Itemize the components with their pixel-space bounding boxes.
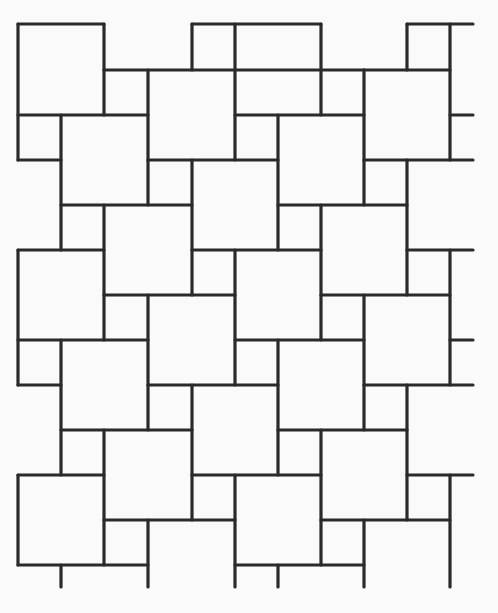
tiling-diagram — [0, 0, 498, 613]
